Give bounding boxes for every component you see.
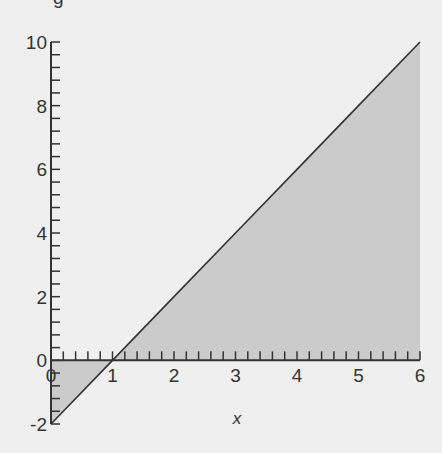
y-tick-label: 6 — [36, 159, 47, 180]
y-tick-label: 10 — [26, 32, 47, 53]
x-tick-label: 4 — [292, 365, 303, 386]
y-tick-label: 4 — [36, 223, 47, 244]
x-tick-label: 2 — [169, 365, 180, 386]
y-tick-label: -2 — [30, 414, 47, 435]
partial-title: g — [53, 0, 64, 8]
plot-area: -20246810 0123456 x — [26, 32, 425, 435]
x-tick-label: 5 — [353, 365, 364, 386]
x-tick-label: 0 — [46, 365, 57, 386]
x-tick-label: 6 — [415, 365, 426, 386]
chart: g -20246810 0123456 x — [0, 0, 442, 453]
y-tick-label: 8 — [36, 96, 47, 117]
x-tick-label: 3 — [230, 365, 241, 386]
x-axis-title: x — [232, 409, 242, 428]
y-axis-labels: -20246810 — [26, 32, 48, 435]
x-tick-label: 1 — [107, 365, 118, 386]
y-tick-label: 2 — [36, 287, 47, 308]
